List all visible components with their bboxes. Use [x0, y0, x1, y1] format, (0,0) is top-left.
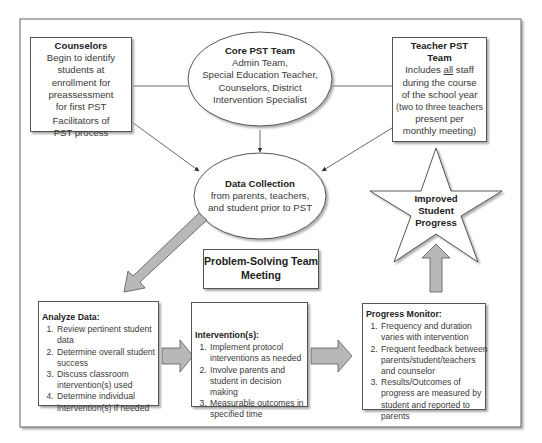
teacher-team-line-part: staff	[453, 64, 474, 75]
analyze-list: Analyze Data: Review pertinent student d…	[42, 312, 158, 414]
core-team-line: Admin Team,	[188, 57, 332, 69]
data-collection-line: from parents, teachers,	[194, 190, 326, 202]
star-line: Student	[396, 205, 476, 217]
counselors-line: enrollment for	[30, 77, 132, 89]
progress-item: Frequency and duration varies with inter…	[380, 321, 488, 343]
counselors-line: Begin to identify	[30, 52, 132, 64]
core-team-line: Intervention Specialist	[188, 94, 332, 106]
interventions-list: Intervention(s): Implement protocol inte…	[195, 330, 307, 421]
star-line: Improved	[396, 193, 476, 205]
core-team-line: Counselors, District	[188, 82, 332, 94]
counselors-line: students at	[30, 64, 132, 76]
teacher-team-line: monthly meeting)	[390, 125, 489, 137]
analyze-item: Discuss classroom intervention(s) used	[56, 369, 158, 391]
data-collection-text: Data Collection from parents, teachers, …	[194, 178, 326, 215]
counselors-line: preassessment	[30, 89, 132, 101]
progress-item: Frequent feedback between parents/studen…	[380, 344, 488, 378]
progress-list: Progress Monitor: Frequency and duration…	[366, 309, 488, 422]
counselors-line: for first PST	[30, 101, 132, 113]
teacher-team-title: Teacher PST	[390, 40, 489, 52]
core-team-line: Special Education Teacher,	[188, 69, 332, 81]
core-team-text: Core PST Team Admin Team, Special Educat…	[188, 45, 332, 106]
meeting-title: Problem-Solving Team Meeting	[203, 255, 319, 282]
teacher-team-line: present per	[390, 113, 489, 125]
interventions-item: Implement protocol interventions as need…	[209, 342, 307, 364]
analyze-item: Review pertinent student data	[56, 324, 158, 346]
teacher-team-line: of the school year	[390, 89, 489, 101]
meeting-line: Meeting	[203, 269, 319, 283]
analyze-title: Analyze Data:	[42, 312, 158, 323]
meeting-line: Problem-Solving Team	[203, 255, 319, 269]
analyze-item: Determine overall student success	[56, 347, 158, 369]
interventions-title: Intervention(s):	[195, 330, 307, 341]
data-collection-line: and student prior to PST	[194, 202, 326, 214]
teacher-team-line: Includes all staff	[390, 64, 489, 76]
teacher-team-line-part: Includes	[405, 64, 443, 75]
star-text: Improved Student Progress	[396, 193, 476, 230]
progress-item: Results/Outcomes of progress are measure…	[380, 377, 488, 422]
interventions-item: Involve parents and student in decision …	[209, 365, 307, 399]
counselors-line: Facilitators of	[30, 115, 132, 127]
core-team-title: Core PST Team	[188, 45, 332, 57]
progress-title: Progress Monitor:	[366, 309, 488, 320]
teacher-team-title: Team	[390, 52, 489, 64]
teacher-team-line: during the course	[390, 77, 489, 89]
teacher-team-line: (two to three teachers	[390, 101, 489, 113]
teacher-team-underlined: all	[444, 64, 454, 75]
star-line: Progress	[396, 217, 476, 229]
counselors-title: Counselors	[30, 40, 132, 52]
counselors-text: Counselors Begin to identify students at…	[30, 40, 132, 140]
interventions-item: Measurable outcomes in specified time	[209, 398, 307, 420]
data-collection-title: Data Collection	[194, 178, 326, 190]
counselors-line: PST process	[30, 127, 132, 139]
teacher-team-text: Teacher PST Team Includes all staff duri…	[390, 40, 489, 138]
analyze-item: Determine individual intervention(s) if …	[56, 391, 158, 413]
